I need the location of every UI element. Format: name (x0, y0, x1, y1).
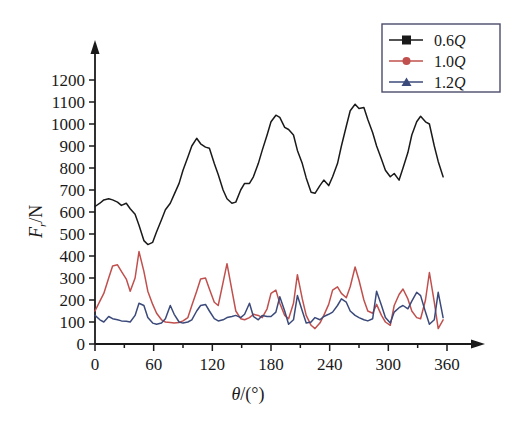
y-axis-tick-label: 500 (60, 225, 86, 244)
y-axis-tick-label: 800 (60, 159, 86, 178)
chart-legend: 0.6Q1.0Q1.2Q (382, 24, 500, 92)
svg-text:θ/(°): θ/(°) (231, 384, 264, 405)
x-axis-tick-label: 240 (317, 355, 343, 374)
y-axis-title: Fr/N (26, 205, 48, 239)
y-axis-tick-label: 300 (60, 269, 86, 288)
x-axis-title: θ/(°) (231, 384, 264, 405)
y-axis-tick-label: 400 (60, 247, 86, 266)
y-axis-tick-label: 1000 (51, 115, 85, 134)
legend-label: 1.2Q (434, 74, 466, 91)
legend-label: 1.0Q (434, 53, 466, 70)
y-axis-tick-label: 1100 (52, 93, 85, 112)
x-axis-tick-label: 360 (434, 355, 460, 374)
radial-force-line-chart: 0100200300400500600700800900100011001200… (0, 0, 520, 425)
x-axis-tick-label: 60 (145, 355, 162, 374)
y-axis-tick-label: 200 (60, 291, 86, 310)
y-axis-title-unit: /N (26, 205, 46, 223)
y-axis-tick-label: 600 (60, 203, 86, 222)
figure-container: 0100200300400500600700800900100011001200… (0, 0, 520, 425)
x-axis-tick-label: 180 (258, 355, 284, 374)
svg-text:Fr/N: Fr/N (26, 205, 48, 239)
y-axis-tick-label: 1200 (51, 71, 85, 90)
x-axis-tick-label: 120 (200, 355, 226, 374)
x-axis-tick-label: 300 (376, 355, 402, 374)
legend-label: 0.6Q (434, 32, 466, 49)
y-axis-tick-label: 0 (77, 335, 86, 354)
x-axis-title-symbol: θ (231, 384, 240, 404)
legend-marker-square (402, 36, 411, 45)
legend-marker-circle (403, 57, 411, 65)
x-axis-title-unit: /(°) (240, 384, 264, 405)
y-axis-tick-label: 700 (60, 181, 86, 200)
x-axis-tick-label: 0 (91, 355, 100, 374)
y-axis-tick-label: 100 (60, 313, 86, 332)
y-axis-tick-label: 900 (60, 137, 86, 156)
